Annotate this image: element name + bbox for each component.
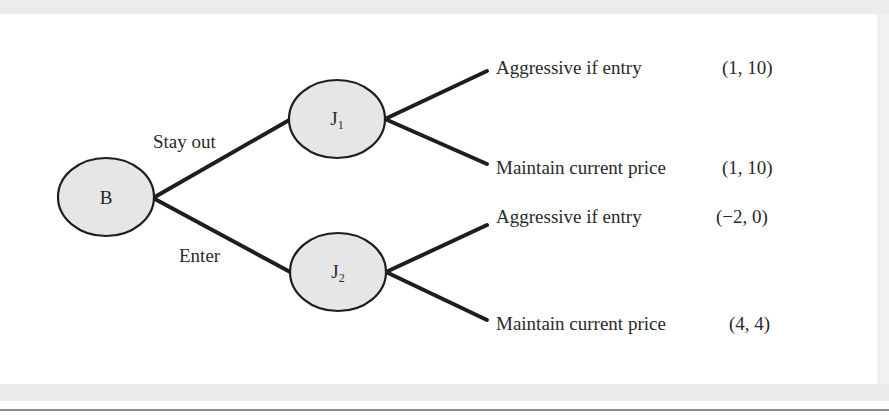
node-j1-label: J1 <box>317 109 357 131</box>
edge-j1-maintain <box>385 119 487 164</box>
leaf-payoff-4: (4, 4) <box>729 314 770 333</box>
edge-j2-aggressive <box>386 225 487 272</box>
leaf-payoff-3: (−2, 0) <box>716 207 768 226</box>
edge-enter <box>153 198 292 273</box>
leaf-action-2: Maintain current price <box>496 158 666 177</box>
node-b-label: B <box>86 188 126 207</box>
leaf-action-3: Aggressive if entry <box>496 207 642 226</box>
node-j1-text: J <box>330 108 337 129</box>
node-j2-text: J <box>331 261 338 282</box>
leaf-action-4: Maintain current price <box>496 314 666 333</box>
edge-label-stay-out: Stay out <box>153 132 216 151</box>
leaf-payoff-2: (1, 10) <box>722 158 773 177</box>
leaf-action-1: Aggressive if entry <box>496 58 642 77</box>
node-j1-subscript: 1 <box>338 118 344 132</box>
leaf-payoff-1: (1, 10) <box>722 58 773 77</box>
node-b-text: B <box>100 187 113 208</box>
node-j2-subscript: 2 <box>339 271 345 285</box>
edge-label-enter: Enter <box>179 246 220 265</box>
edge-j1-aggressive <box>385 71 487 119</box>
node-j2-label: J2 <box>318 262 358 284</box>
edge-j2-maintain <box>386 272 487 320</box>
